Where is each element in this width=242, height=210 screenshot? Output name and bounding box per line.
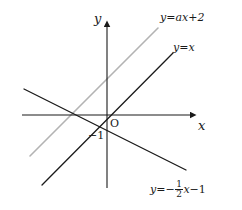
eq3-constant: −1 (190, 183, 206, 196)
eq1-body: ax+2 (175, 11, 204, 24)
eq3-sign: − (165, 183, 174, 196)
tick-label-minus-one: −1 (88, 130, 104, 141)
eq3-fraction-denominator: 2 (175, 189, 183, 199)
equation-label-decreasing-line: y=−12x−1 (150, 180, 206, 199)
line-y-equals-minus-half-x-minus-1 (24, 89, 186, 170)
eq2-body: x (188, 41, 194, 54)
equation-label-identity-line: y=x (173, 42, 195, 53)
math-figure-coordinate-plane: x y O −1 y=ax+2 y=x y=−12x−1 (0, 0, 242, 210)
y-axis-label: y (94, 12, 101, 25)
eq3-fraction-numerator: 1 (175, 180, 183, 189)
eq3-y: y= (150, 183, 165, 196)
eq2-y: y= (173, 41, 188, 54)
eq1-y: y= (160, 11, 175, 24)
x-axis-label: x (198, 119, 205, 132)
equation-label-gray-line: y=ax+2 (160, 12, 204, 23)
origin-label: O (110, 118, 119, 129)
graph-canvas (0, 0, 242, 210)
eq3-fraction: 12 (175, 180, 183, 199)
